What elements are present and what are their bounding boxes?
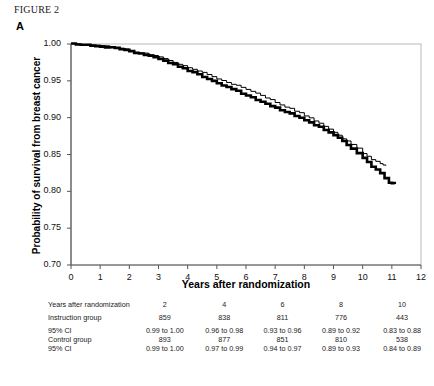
table-cell: 776	[312, 313, 370, 322]
table-row: 95% CI0.99 to 1.000.97 to 0.990.94 to 0.…	[0, 344, 434, 353]
table-row: Control group893877851810538	[0, 335, 434, 344]
table-cell: 811	[253, 313, 311, 322]
x-tick-label: 4	[178, 272, 198, 282]
x-tick-label: 11	[382, 272, 402, 282]
table-cell: 8	[312, 300, 370, 309]
risk-table: Years after randomization246810Instructi…	[0, 300, 434, 353]
table-row: 95% CI0.99 to 1.000.96 to 0.980.93 to 0.…	[0, 326, 434, 335]
row-label: Instruction group	[0, 313, 135, 322]
row-label: Control group	[0, 335, 135, 344]
table-cell: 0.96 to 0.98	[195, 326, 253, 335]
table-cell: 4	[195, 300, 253, 309]
y-tick-label: 1.00	[27, 38, 61, 48]
y-tick-label: 0.85	[27, 149, 61, 159]
table-cell: 0.93 to 0.96	[253, 326, 311, 335]
y-tick-label: 0.80	[27, 185, 61, 195]
table-row: Instruction group859838811776443	[0, 313, 434, 322]
row-label: 95% CI	[0, 344, 135, 353]
table-cell: 0.89 to 0.92	[312, 326, 370, 335]
table-cell: 0.99 to 1.00	[135, 326, 195, 335]
curve-instruction-group	[71, 43, 395, 184]
y-tick-label: 0.95	[27, 75, 61, 85]
table-cell: 10	[370, 300, 434, 309]
row-label: 95% CI	[0, 326, 135, 335]
y-tick-label: 0.70	[27, 259, 61, 269]
table-cell: 0.89 to 0.93	[312, 344, 370, 353]
table-cell: 0.83 to 0.88	[370, 326, 434, 335]
table-cell: 443	[370, 313, 434, 322]
x-tick-label: 7	[265, 272, 285, 282]
risk-table-grid: Years after randomization246810Instructi…	[0, 300, 434, 353]
table-cell: 838	[195, 313, 253, 322]
x-tick-label: 8	[294, 272, 314, 282]
x-tick-label: 0	[61, 272, 81, 282]
table-cell: 2	[135, 300, 195, 309]
x-tick-label: 3	[149, 272, 169, 282]
x-tick-label: 12	[411, 272, 431, 282]
row-label: Years after randomization	[0, 300, 135, 309]
table-cell: 538	[370, 335, 434, 344]
table-row: Years after randomization246810	[0, 300, 434, 309]
table-cell: 6	[253, 300, 311, 309]
table-cell: 0.97 to 0.99	[195, 344, 253, 353]
plot-canvas	[0, 0, 434, 300]
x-tick-label: 2	[119, 272, 139, 282]
curve-control-group	[71, 44, 386, 166]
table-cell: 893	[135, 335, 195, 344]
y-tick-label: 0.90	[27, 112, 61, 122]
x-tick-label: 1	[90, 272, 110, 282]
survival-chart: Probability of survival from breast canc…	[0, 0, 434, 300]
y-tick-label: 0.75	[27, 222, 61, 232]
x-tick-label: 6	[236, 272, 256, 282]
table-cell: 0.99 to 1.00	[135, 344, 195, 353]
x-tick-label: 10	[353, 272, 373, 282]
x-tick-label: 5	[207, 272, 227, 282]
x-tick-label: 9	[324, 272, 344, 282]
table-cell: 0.94 to 0.97	[253, 344, 311, 353]
table-cell: 0.84 to 0.89	[370, 344, 434, 353]
table-cell: 810	[312, 335, 370, 344]
table-cell: 859	[135, 313, 195, 322]
table-cell: 851	[253, 335, 311, 344]
table-cell: 877	[195, 335, 253, 344]
